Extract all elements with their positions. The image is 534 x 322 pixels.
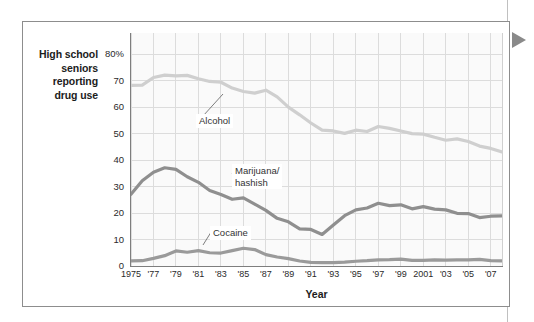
plot-axis-y: [130, 33, 131, 267]
y-axis-caption: High school seniors reporting drug use: [22, 48, 98, 102]
y-tick-label: 40: [90, 154, 124, 165]
series-label-marijuana: Marijuana/ hashish: [232, 164, 282, 189]
chart-svg: [131, 33, 502, 266]
plot-axis-x: [130, 266, 503, 267]
y-tick-label: 20: [90, 207, 124, 218]
plot-area: [131, 33, 502, 266]
y-tick-label: 30: [90, 181, 124, 192]
right-triangle-icon: [512, 32, 526, 48]
plot-border-right: [502, 33, 503, 266]
series-label-alcohol: Alcohol: [196, 114, 233, 128]
series-label-cocaine: Cocaine: [210, 226, 251, 240]
x-tick-label: '07: [476, 269, 506, 279]
y-tick-label: 10: [90, 234, 124, 245]
y-tick-label: 60: [90, 101, 124, 112]
y-tick-label: 80%: [90, 48, 124, 59]
y-tick-label: 70: [90, 75, 124, 86]
x-axis-title: Year: [131, 288, 502, 300]
y-tick-label: 50: [90, 128, 124, 139]
figure-container: High school seniors reporting drug use 0…: [0, 0, 534, 322]
